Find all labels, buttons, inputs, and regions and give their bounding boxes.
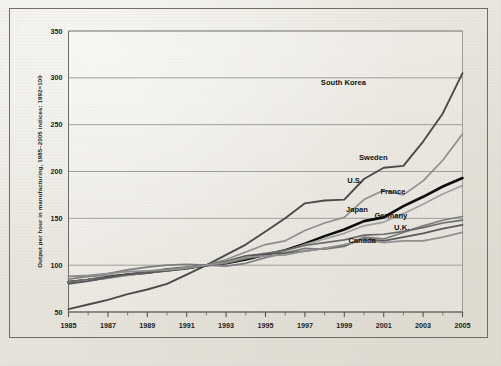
x-tick-label: 1995 [258,321,274,330]
y-tick-label: 350 [51,27,63,36]
x-tick-label: 1987 [100,321,116,330]
series-label-south-korea: South Korea [321,78,367,87]
x-tick-label: 1985 [61,321,77,330]
chart-figure: 5010015020025030035019851987198919911993… [0,0,501,366]
x-tick-label: 1999 [336,321,352,330]
x-tick-label: 1991 [179,321,195,330]
y-tick-label: 300 [51,73,63,82]
series-label-canada: Canada [348,236,376,245]
x-tick-label: 1993 [218,321,234,330]
series-label-germany: Germany [374,211,408,220]
x-tick-label: 2001 [376,321,392,330]
x-tick-label: 1989 [139,321,155,330]
y-tick-labels: 50100150200250300350 [51,27,63,317]
series-label-japan: Japan [346,205,368,214]
y-tick-label: 200 [51,167,63,176]
x-tick-labels: 1985198719891991199319951997199920012003… [61,312,471,330]
y-axis-title: Output per hour in manufacturing, 1985–2… [36,75,43,268]
line-chart: 5010015020025030035019851987198919911993… [0,0,501,366]
y-tick-label: 100 [51,261,63,270]
y-tick-label: 250 [51,120,63,129]
series-label-sweden: Sweden [359,153,388,162]
x-tick-label: 2005 [455,321,471,330]
x-tick-label: 2003 [415,321,431,330]
series-label-u-k: U.K. [394,223,409,232]
series-label-france: France [380,187,405,196]
series-label-u-s: U.S. [347,176,362,185]
y-tick-label: 150 [51,214,63,223]
y-tick-label: 50 [55,308,63,317]
x-tick-label: 1997 [297,321,313,330]
